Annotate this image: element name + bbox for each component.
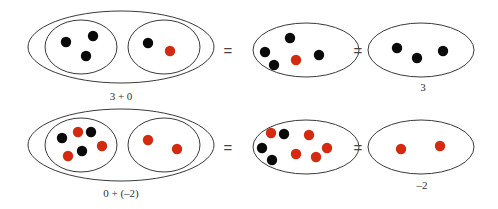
black-positive-chip xyxy=(269,60,279,70)
black-positive-chip xyxy=(438,46,448,56)
black-positive-chip xyxy=(61,37,71,47)
black-positive-chip xyxy=(279,129,289,139)
first-addend-ellipse xyxy=(45,20,117,74)
red-negative-chip xyxy=(165,46,175,56)
result-ellipse xyxy=(368,23,474,77)
red-negative-chip xyxy=(172,144,182,154)
row-zero-plus-negative-two: ==0 + (–2)–2 xyxy=(28,109,474,200)
equals-sign: = xyxy=(224,42,233,59)
red-negative-chip xyxy=(396,144,406,154)
black-positive-chip xyxy=(285,33,295,43)
black-positive-chip xyxy=(412,53,422,63)
result-ellipse xyxy=(368,120,474,174)
result-label: –2 xyxy=(416,179,428,191)
outer-sum-ellipse xyxy=(28,109,214,181)
red-negative-chip xyxy=(73,127,83,137)
integer-addition-chip-diagram: ==3 + 03 ==0 + (–2)–2 xyxy=(0,0,498,209)
red-negative-chip xyxy=(143,135,153,145)
combined-chips-ellipse xyxy=(253,120,359,174)
outer-sum-ellipse xyxy=(28,11,214,83)
black-positive-chip xyxy=(260,47,270,57)
black-positive-chip xyxy=(392,43,402,53)
black-positive-chip xyxy=(81,51,91,61)
red-negative-chip xyxy=(97,141,107,151)
second-addend-ellipse xyxy=(128,118,200,172)
second-addend-ellipse xyxy=(128,20,200,74)
black-positive-chip xyxy=(86,127,96,137)
black-positive-chip xyxy=(88,31,98,41)
black-positive-chip xyxy=(267,155,277,165)
black-positive-chip xyxy=(143,38,153,48)
equals-sign: = xyxy=(224,139,233,156)
red-negative-chip xyxy=(291,55,301,65)
black-positive-chip xyxy=(77,146,87,156)
black-positive-chip xyxy=(57,133,67,143)
expression-label: 3 + 0 xyxy=(110,90,133,102)
black-positive-chip xyxy=(257,143,267,153)
row-three-plus-zero: ==3 + 03 xyxy=(28,11,474,102)
red-negative-chip xyxy=(322,143,332,153)
red-negative-chip xyxy=(435,141,445,151)
red-negative-chip xyxy=(304,130,314,140)
equals-sign: = xyxy=(354,42,363,59)
red-negative-chip xyxy=(311,152,321,162)
result-label: 3 xyxy=(420,81,426,93)
red-negative-chip xyxy=(266,128,276,138)
equals-sign: = xyxy=(354,139,363,156)
expression-label: 0 + (–2) xyxy=(103,187,139,200)
red-negative-chip xyxy=(63,151,73,161)
red-negative-chip xyxy=(291,149,301,159)
black-positive-chip xyxy=(314,50,324,60)
